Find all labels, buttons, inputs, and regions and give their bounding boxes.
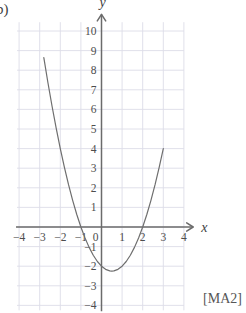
y-tick--2: −2	[84, 260, 96, 272]
axes	[16, 14, 193, 311]
x-axis-label: x	[200, 220, 208, 235]
y-tick--4: −4	[84, 299, 96, 311]
reference-label: [MA2]	[203, 291, 242, 307]
x-tick--3: −3	[34, 231, 46, 243]
y-tick-8: 8	[91, 64, 97, 76]
x-tick--4: −4	[13, 231, 25, 243]
y-tick-3: 3	[91, 162, 97, 174]
coordinate-plot: −4−3−2−11234010987654321−1−2−3−4 x y	[0, 0, 246, 313]
x-tick-1: 1	[119, 231, 125, 243]
x-tick-4: 4	[181, 231, 187, 243]
y-tick-5: 5	[91, 123, 97, 135]
x-tick--2: −2	[54, 231, 66, 243]
y-tick-10: 10	[85, 25, 97, 37]
graph-svg: −4−3−2−11234010987654321−1−2−3−4 x y	[0, 0, 246, 313]
y-tick-4: 4	[91, 143, 97, 155]
y-tick-9: 9	[91, 45, 97, 57]
x-tick-3: 3	[160, 231, 166, 243]
y-tick-1: 1	[91, 201, 97, 213]
y-tick-7: 7	[91, 84, 97, 96]
graph-page: b) −4−3−2−11234010987654321−1−2−3−4 x y …	[0, 0, 246, 313]
y-tick-6: 6	[91, 103, 97, 115]
y-tick--3: −3	[84, 280, 96, 292]
y-tick-2: 2	[91, 182, 97, 194]
y-axis-label: y	[97, 0, 106, 10]
